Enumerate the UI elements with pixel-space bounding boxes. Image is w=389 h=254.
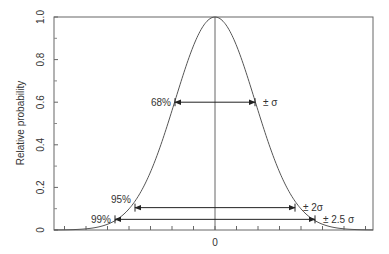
percent-label: 95%	[111, 194, 131, 205]
percent-label: 99%	[91, 214, 111, 225]
y-tick-label: 0	[35, 227, 46, 233]
sigma-label: ± σ	[263, 97, 278, 108]
sigma-label: ± 2.5 σ	[323, 214, 355, 225]
y-tick-label: 0.8	[35, 52, 46, 66]
y-tick-label: 1.0	[35, 10, 46, 24]
gaussian-curve	[54, 17, 373, 230]
y-tick-label: 0.4	[35, 137, 46, 151]
y-tick-label: 0.6	[35, 95, 46, 109]
plot-frame	[54, 17, 373, 230]
percent-label: 68%	[151, 97, 171, 108]
y-tick-label: 0.2	[35, 180, 46, 194]
normal-distribution-chart: 00.20.40.60.81.0 0 Relative probability …	[0, 0, 389, 254]
x-tick-label: 0	[212, 237, 218, 248]
sigma-label: ± 2σ	[303, 202, 324, 213]
y-axis-label: Relative probability	[15, 81, 26, 166]
y-axis: 00.20.40.60.81.0	[35, 10, 58, 233]
confidence-annotations: 68%± σ95%± 2σ99%± 2.5 σ	[91, 97, 355, 225]
